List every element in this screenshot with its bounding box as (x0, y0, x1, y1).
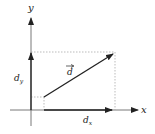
dx-label: dx (83, 115, 93, 126)
vector-diagram: y x dy dx d (0, 0, 155, 134)
vector-d-arrow (44, 54, 113, 97)
dy-label: dy (14, 73, 24, 85)
vector-d-label: d (67, 67, 73, 77)
y-axis-label: y (27, 2, 34, 13)
x-axis-label: x (141, 104, 147, 115)
